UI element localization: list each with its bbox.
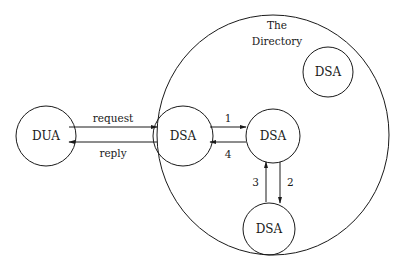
dsa-middle-label: DSA: [260, 129, 287, 143]
dsa-top-right-label: DSA: [315, 65, 342, 79]
reply-label: reply: [99, 147, 126, 159]
node-dsa-bottom: DSA: [243, 203, 295, 255]
edge-step-2: 2: [280, 162, 294, 203]
node-dua: DUA: [16, 106, 76, 166]
edge-step-1: 1: [210, 112, 246, 127]
step-3-label: 3: [252, 176, 259, 188]
step-2-label: 2: [287, 176, 294, 188]
step-4-label: 4: [225, 148, 232, 160]
directory-title-line1: The: [267, 19, 287, 31]
dua-label: DUA: [32, 129, 60, 143]
directory-title-line2: Directory: [252, 35, 302, 47]
node-dsa-middle: DSA: [246, 109, 300, 163]
edge-request: request: [69, 112, 157, 127]
node-dsa-entry: DSA: [153, 106, 213, 166]
step-1-label: 1: [225, 112, 232, 124]
dsa-entry-label: DSA: [170, 129, 197, 143]
directory-diagram: The Directory DUA DSA DSA DSA DSA reques…: [0, 0, 403, 268]
request-label: request: [93, 112, 134, 124]
edge-reply: reply: [69, 142, 157, 159]
edge-step-3: 3: [252, 162, 266, 202]
dsa-bottom-label: DSA: [256, 222, 283, 236]
edge-step-4: 4: [210, 142, 246, 160]
node-dsa-top-right: DSA: [303, 47, 353, 97]
